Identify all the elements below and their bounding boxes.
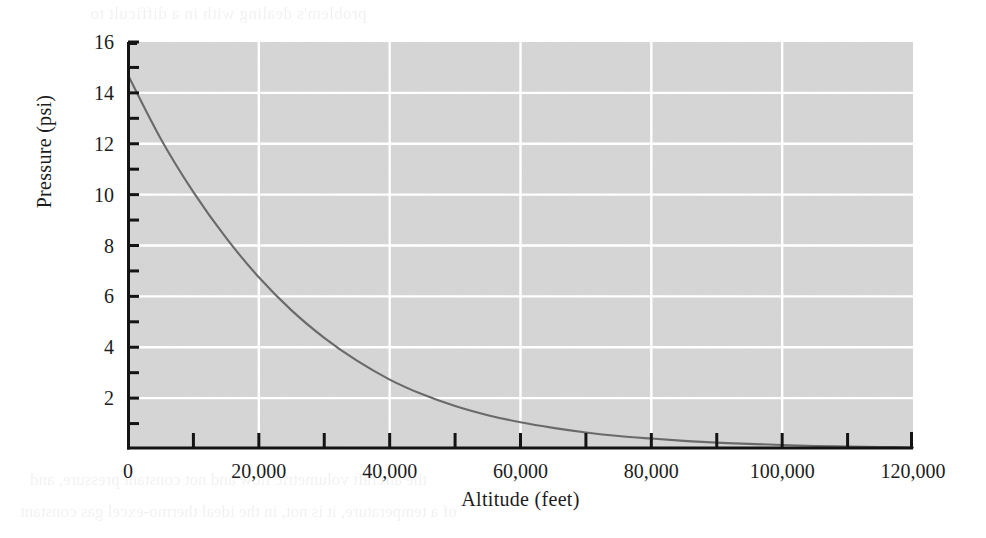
plot-svg: 246810121416 020,00040,00060,00080,00010…: [0, 0, 986, 538]
x-tick-label: 100,000: [750, 460, 815, 482]
x-tick-label: 60,000: [493, 460, 548, 482]
x-axis-tick-labels: 020,00040,00060,00080,000100,000120,000: [123, 460, 946, 482]
x-tick-label: 20,000: [231, 460, 286, 482]
x-tick-label: 80,000: [624, 460, 679, 482]
y-tick-label: 12: [94, 133, 114, 155]
pressure-vs-altitude-chart: Pressure (psi) Altitude (feet): [0, 0, 986, 538]
y-tick-label: 6: [104, 285, 114, 307]
x-tick-label: 40,000: [362, 460, 417, 482]
y-tick-label: 2: [104, 387, 114, 409]
x-tick-label: 0: [123, 460, 133, 482]
x-tick-label: 120,000: [881, 460, 946, 482]
y-tick-label: 10: [94, 184, 114, 206]
y-tick-label: 14: [94, 82, 114, 104]
y-tick-label: 16: [94, 31, 114, 53]
y-tick-label: 4: [104, 336, 114, 358]
y-tick-label: 8: [104, 235, 114, 257]
y-axis-tick-labels: 246810121416: [94, 31, 114, 409]
